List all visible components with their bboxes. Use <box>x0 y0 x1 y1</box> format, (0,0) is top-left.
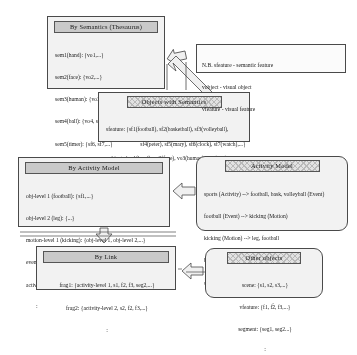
legend-line-2: vobject - visual object <box>202 84 340 91</box>
box-by-activity-model: By Activity Model obj-level 1 (football)… <box>18 157 170 227</box>
row-football: football (Event) --> kicking (Motion) <box>204 213 342 220</box>
row-obj-level-2: obj-level 2 (leg): {...} <box>26 215 164 222</box>
box-by-semantics: By Semantics (Thesaurus) sem1(hand): {vo… <box>47 16 165 89</box>
row-sem1: sem1(hand): {vo1,...} <box>55 52 159 59</box>
row-obj-level-1: obj-level 1 (football): {sf1,...} <box>26 193 164 200</box>
ellipsis-by-link: : <box>44 328 170 333</box>
arrow-objects-to-semantics-upper <box>166 47 188 67</box>
box-other-objects-rows: scene: {s1, s2, s3,...} vfeature: {f1, f… <box>206 266 322 355</box>
row-sem2: sem2(face): {vo2,...} <box>55 74 159 81</box>
box-by-activity-model-header: By Activity Model <box>25 162 163 174</box>
row-frag2: frag2: {activity-level 2, s2, f2, f3,...… <box>44 305 170 313</box>
row-scene: scene: {s1, s2, s3,...} <box>213 282 317 289</box>
box-activity-model: Activity Model sports (Activity) --> foo… <box>196 156 348 231</box>
row-vfeature: vfeature: {f1, f2, f3,...} <box>213 304 317 311</box>
legend-note: N.B. sfeature - semantic feature vobject… <box>196 44 346 73</box>
row-segment: segment: {seg1, seg2...} <box>213 326 317 333</box>
box-by-link: By Link frag1: {activity-level 1, s1, f2… <box>36 246 176 290</box>
box-other-objects: Other objects scene: {s1, s2, s3,...} vf… <box>205 248 323 298</box>
row-kicking: kicking (Motion) --> leg, football <box>204 235 342 242</box>
legend-line-3: vfeature - visual feature <box>202 106 340 113</box>
box-activity-model-header: Activity Model <box>225 160 320 172</box>
box-by-link-header: By Link <box>43 251 169 263</box>
ellipsis-other-objects: : <box>213 347 317 352</box>
row-sports: sports (Activity) --> football, bask, vo… <box>204 191 342 198</box>
row-sfeature-2: sf4(peter), sf5(mary), sf6(clock), sf7(w… <box>114 141 245 148</box>
arrow-activity-to-by-activity <box>173 183 195 199</box>
legend-line-1: N.B. sfeature - semantic feature <box>202 62 340 69</box>
box-other-objects-header: Other objects <box>227 252 301 264</box>
row-frag1: frag1: {activity-level 1, s1, f2, f3, se… <box>44 282 170 290</box>
row-sfeature-1: sfeature: {sf1(football), sf2(basketball… <box>106 126 244 133</box>
box-by-link-rows: frag1: {activity-level 1, s1, f2, f3, se… <box>37 265 175 350</box>
box-by-semantics-header: By Semantics (Thesaurus) <box>54 21 158 33</box>
row-motion-level-1: motion-level 1 (kicking): {obj-level 1, … <box>26 237 164 244</box>
